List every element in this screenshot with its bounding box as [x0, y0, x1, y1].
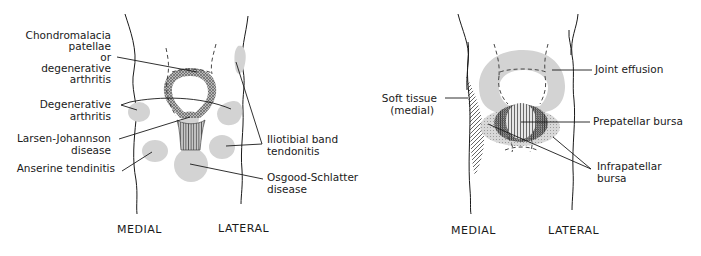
caption-lateral-left: LATERAL — [218, 222, 269, 235]
svg-text:arthritis: arthritis — [70, 73, 111, 85]
leader-anserine — [122, 152, 152, 171]
iliotibial-lower-area — [209, 135, 235, 159]
svg-text:Infrapatellar: Infrapatellar — [597, 160, 662, 172]
svg-text:arthritis: arthritis — [70, 110, 111, 122]
svg-text:(medial): (medial) — [390, 104, 434, 116]
label-infrapatellar-bursa: Infrapatellar bursa — [597, 160, 662, 184]
svg-text:bursa: bursa — [597, 172, 627, 184]
svg-text:Larsen-Johannson: Larsen-Johannson — [17, 132, 111, 144]
caption-lateral-right: LATERAL — [548, 224, 599, 237]
label-soft-tissue: Soft tissue (medial) — [382, 92, 437, 116]
left-knee-figure: Chondromalacia patellae or degenerative … — [17, 14, 359, 236]
patellar-tendon — [177, 120, 205, 150]
svg-text:Soft tissue: Soft tissue — [382, 92, 437, 104]
label-joint-effusion: Joint effusion — [594, 63, 663, 75]
medial-degenerative-area — [128, 102, 150, 122]
svg-text:disease: disease — [267, 183, 307, 195]
label-chondromalacia: Chondromalacia patellae or degenerative … — [26, 29, 112, 85]
osgood-schlatter-area — [174, 148, 208, 182]
svg-text:tendonitis: tendonitis — [267, 145, 319, 157]
iliotibial-upper-area — [234, 46, 245, 74]
caption-medial-right: MEDIAL — [451, 224, 496, 237]
label-degenerative-arthritis: Degenerative arthritis — [40, 98, 111, 122]
medial-leg-outline-right — [458, 14, 471, 214]
leader-chondromalacia — [117, 57, 197, 72]
joint-effusion-area — [479, 50, 565, 112]
label-anserine-tendinitis: Anserine tendinitis — [17, 162, 115, 174]
label-prepatellar-bursa: Prepatellar bursa — [593, 115, 683, 127]
label-iliotibial-band: Iliotibial band tendonitis — [267, 133, 338, 157]
knee-pain-diagram: Chondromalacia patellae or degenerative … — [0, 0, 701, 256]
patella-ring — [164, 68, 216, 118]
lateral-leg-outline-right — [572, 14, 578, 210]
svg-text:Iliotibial band: Iliotibial band — [267, 133, 338, 145]
svg-text:Osgood-Schlatter: Osgood-Schlatter — [267, 171, 359, 183]
label-larsen-johannson: Larsen-Johannson disease — [17, 132, 111, 156]
svg-text:disease: disease — [71, 144, 111, 156]
right-knee-figure: Soft tissue (medial) Joint effusion Prep… — [382, 14, 683, 237]
lateral-degenerative-area — [217, 101, 242, 125]
label-osgood-schlatter: Osgood-Schlatter disease — [267, 171, 359, 195]
anserine-area — [142, 140, 168, 162]
caption-medial-left: MEDIAL — [117, 223, 162, 236]
svg-text:Degenerative: Degenerative — [40, 98, 111, 110]
